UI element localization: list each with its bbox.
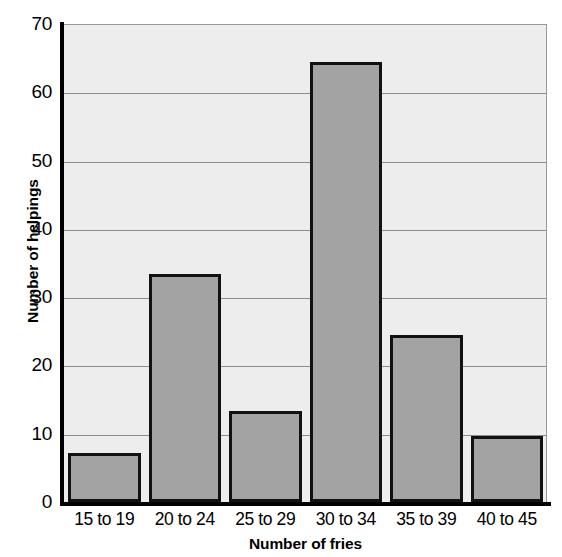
y-axis-tick-label: 30 [31,286,52,308]
bar [390,335,463,502]
bar [310,62,383,502]
y-axis-tick-label: 60 [31,81,52,103]
x-axis-title: Number of fries [64,535,547,553]
y-axis-tick-label: 40 [31,218,52,240]
bar [149,274,222,502]
x-axis-tick-label: 35 to 39 [386,509,467,530]
bar [68,453,141,502]
y-axis-tick-labels: 010203040506070 [0,0,58,557]
bars-layer [64,25,546,502]
bar-chart: Number of helpings 010203040506070 15 to… [0,0,562,557]
y-axis-tick-label: 10 [31,423,52,445]
x-axis-tick-label: 20 to 24 [145,509,226,530]
y-axis-tick-label: 0 [42,491,52,513]
x-axis-tick-labels: 15 to 1920 to 2425 to 2930 to 3435 to 39… [64,509,547,535]
plot-area [64,24,547,502]
x-axis-tick-label: 40 to 45 [467,509,548,530]
bar [229,411,302,503]
y-axis-tick-label: 50 [31,150,52,172]
y-axis-tick-label: 70 [31,13,52,35]
x-axis-tick-label: 15 to 19 [64,509,145,530]
bar [471,436,544,502]
x-axis-line [60,502,551,506]
y-axis-tick-label: 20 [31,354,52,376]
x-axis-tick-label: 30 to 34 [306,509,387,530]
x-axis-tick-label: 25 to 29 [225,509,306,530]
